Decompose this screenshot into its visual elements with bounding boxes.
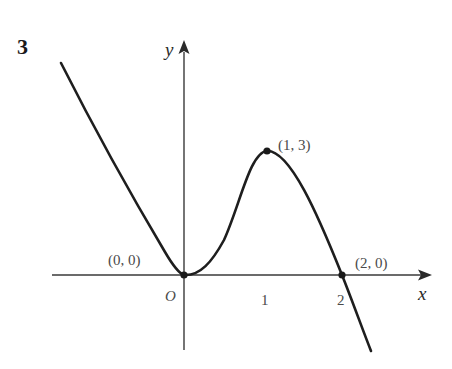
x-tick-2: 2 (337, 293, 345, 308)
question-number: 3 (17, 36, 28, 58)
graph-canvas (0, 0, 452, 369)
x-axis-label: x (418, 284, 426, 303)
curve-sketch-figure: 3 y x O 1 2 (0, 0) (1, 3) (2, 0) (0, 0, 452, 369)
cubic-curve (61, 63, 371, 351)
point-label-x-intercept: (2, 0) (355, 256, 388, 271)
x-tick-1: 1 (261, 293, 269, 308)
point-x-intercept (338, 271, 345, 278)
point-label-maximum: (1, 3) (278, 138, 311, 153)
y-axis-label: y (165, 40, 173, 59)
point-label-origin: (0, 0) (108, 253, 141, 268)
point-maximum (263, 147, 270, 154)
point-origin (180, 271, 187, 278)
y-axis-arrowhead-icon (179, 40, 190, 54)
origin-label: O (165, 289, 176, 304)
